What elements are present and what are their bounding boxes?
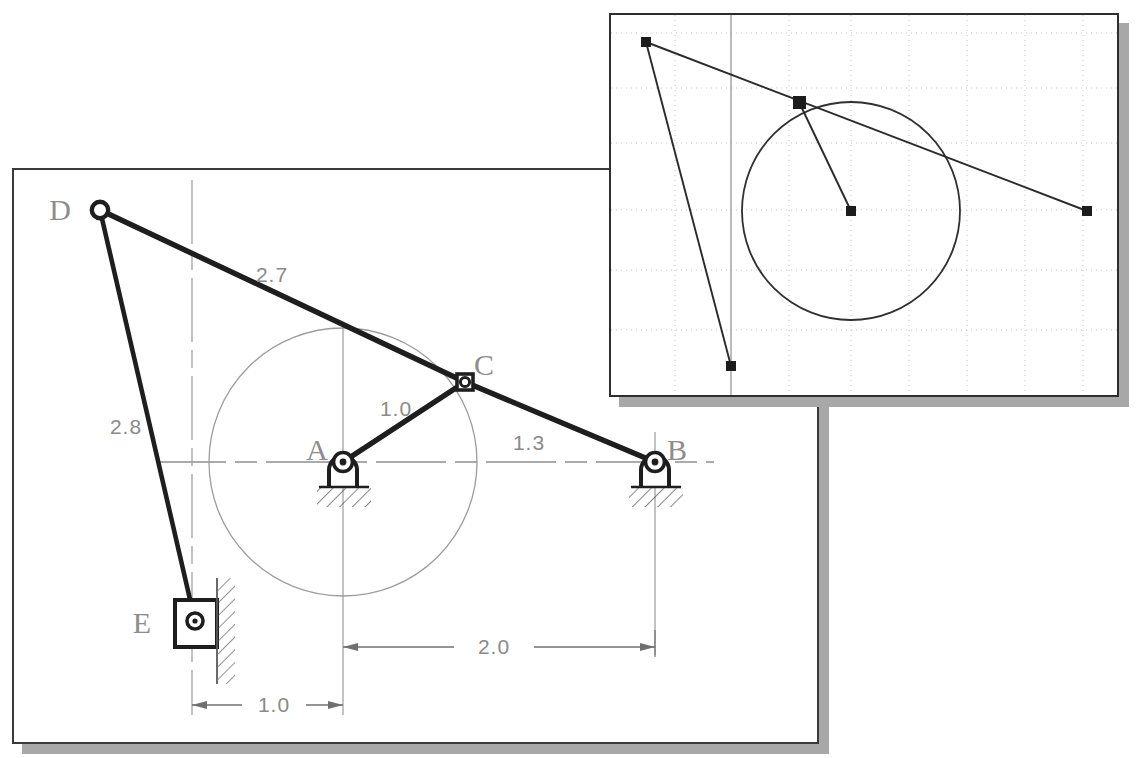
slider-guide-wall [217,578,235,684]
joint-D[interactable] [92,202,108,218]
dotted-grid [611,15,1117,395]
dim-span-AB: 2.0 [478,635,510,658]
dim-link-DE: 2.8 [110,415,142,438]
plot-preview-canvas[interactable] [611,15,1117,395]
seg-DC-B [646,42,1087,211]
dim-link-DC: 2.7 [256,263,288,286]
plot-segments [646,42,1087,366]
linkage-links[interactable] [100,210,655,621]
plot-preview-window[interactable] [609,13,1119,397]
marker-C[interactable] [793,96,806,109]
dim-offset-EA: 1.0 [258,693,290,716]
joint-label-B: B [667,433,687,466]
link-AC[interactable] [343,382,465,462]
dim-link-CB: 1.3 [513,431,545,454]
slider-E[interactable] [175,600,217,647]
screen-canvas: 2.7 2.8 1.0 1.3 2.0 1.0 D C A B E [0,0,1138,758]
seg-DE [646,42,731,366]
joint-label-C: C [474,348,494,381]
joint-label-A: A [306,433,328,466]
plot-markers[interactable] [641,37,1092,371]
marker-E[interactable] [726,361,736,371]
marker-D[interactable] [641,37,651,47]
link-DC[interactable] [100,210,465,382]
marker-A[interactable] [846,206,856,216]
dim-link-AC: 1.0 [380,397,412,420]
joint-C[interactable] [457,374,473,390]
joint-label-E: E [133,606,151,639]
marker-B[interactable] [1082,206,1092,216]
joint-label-D: D [49,193,71,226]
